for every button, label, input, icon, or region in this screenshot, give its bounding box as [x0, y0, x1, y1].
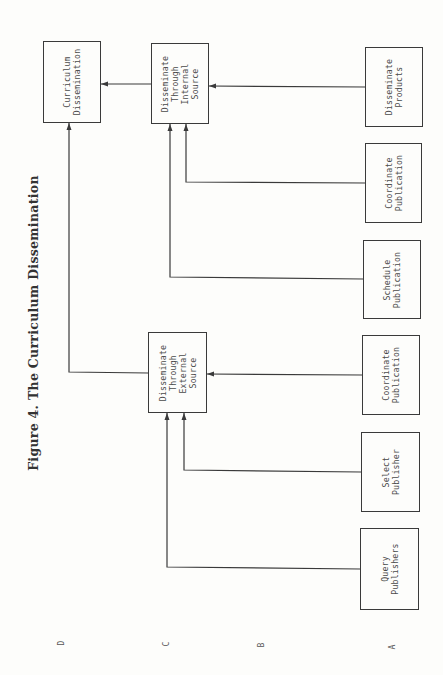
level-label-a: A [388, 645, 397, 650]
edge-disseminate_products-to-internal_source [209, 86, 365, 87]
node-coordinate-publication-external: Coordinate Publication [362, 335, 420, 415]
level-label-d: D [57, 641, 66, 646]
node-label: Disseminate Through Internal Source [160, 55, 200, 111]
node-schedule-publication: Schedule Publication [363, 240, 421, 319]
node-label: Query Publishers [380, 543, 400, 594]
node-coordinate-publication-internal: Coordinate Publication [365, 143, 422, 223]
node-disseminate-products: Disseminate Products [365, 47, 423, 127]
level-label-b: B [257, 643, 266, 648]
edge-external_source-to-curriculum_dissemination [69, 123, 148, 373]
node-query-publishers: Query Publishers [360, 528, 419, 610]
node-label: Coordinate Publication [381, 347, 401, 403]
node-disseminate-through-internal-source: Disseminate Through Internal Source [151, 43, 209, 124]
node-label: Curriculum Dissemination [62, 49, 82, 116]
node-label: Coordinate Publication [384, 155, 404, 211]
node-label: Select Publisher [381, 449, 401, 495]
edge-select_publisher-to-external_source [184, 413, 361, 472]
diagram-canvas: Figure 4. The Curriculum Dissemination C… [0, 0, 443, 675]
node-label: Schedule Publication [382, 251, 402, 307]
edge-coordinate_publication_internal-to-internal_source [186, 124, 365, 183]
node-label: Disseminate Through External Source [158, 344, 198, 400]
node-curriculum-dissemination: Curriculum Dissemination [43, 41, 101, 123]
edge-query_publishers-to-external_source [167, 413, 360, 569]
edge-coordinate_publication_external-to-external_source [207, 374, 362, 375]
node-select-publisher: Select Publisher [361, 432, 420, 512]
figure-title: Figure 4. The Curriculum Dissemination [26, 175, 41, 471]
node-disseminate-through-external-source: Disseminate Through External Source [148, 332, 207, 413]
level-label-c: C [162, 642, 171, 647]
node-label: Disseminate Products [384, 59, 404, 115]
edge-schedule_publication-to-internal_source [170, 124, 363, 279]
